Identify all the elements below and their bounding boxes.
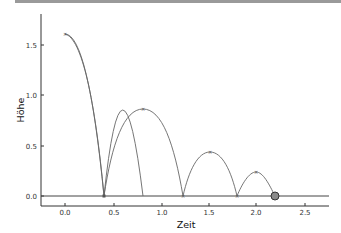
ball-icon xyxy=(271,192,279,200)
trajectory-line xyxy=(65,34,275,196)
x-tick-label: 2.0 xyxy=(250,209,261,217)
x-tick-label: 0.5 xyxy=(108,209,119,217)
y-tick-label: 1.5 xyxy=(26,42,37,50)
chart: 0.0 0.5 1.0 1.5 0.0 0.5 1.0 1.5 2.0 2.5 … xyxy=(0,0,341,233)
x-tick-label: 1.5 xyxy=(203,209,214,217)
x-tick-label: 0.0 xyxy=(59,209,70,217)
y-tick-label: 0.5 xyxy=(26,143,37,151)
y-tick-label: 0.0 xyxy=(26,193,37,201)
x-ticks: 0.0 0.5 1.0 1.5 2.0 2.5 xyxy=(59,203,310,217)
marker-icon xyxy=(103,195,106,198)
y-axis-label: Höhe xyxy=(15,97,26,122)
x-axis-label: Zeit xyxy=(177,219,196,230)
x-tick-label: 1.0 xyxy=(156,209,167,217)
x-tick-label: 2.5 xyxy=(299,209,310,217)
marker-icon: ✕ xyxy=(181,193,185,199)
marker-icon: ✕ xyxy=(254,169,258,175)
trajectory-fall xyxy=(65,34,104,196)
marker-icon: ✕ xyxy=(141,106,145,112)
marker-icon: ✕ xyxy=(63,31,67,37)
y-tick-label: 1.0 xyxy=(26,92,37,100)
marker-icon: ✕ xyxy=(235,193,239,199)
marker-icon: ✕ xyxy=(208,149,212,155)
trajectory-markers: ✕ ✕ ✕ ✕ ✕ ✕ xyxy=(63,31,258,199)
